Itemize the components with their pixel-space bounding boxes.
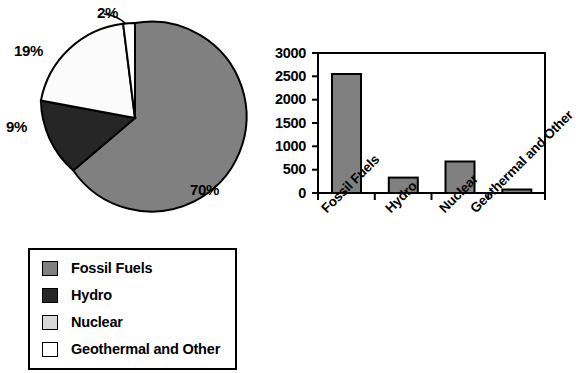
chart-legend: Fossil Fuels Hydro Nuclear Geothermal an… bbox=[28, 248, 237, 370]
y-axis-tick-label-1000: 1000 bbox=[262, 139, 306, 154]
legend-label-nuclear: Nuclear bbox=[71, 314, 123, 330]
y-axis-tick-label-1500: 1500 bbox=[262, 116, 306, 131]
bar-geothermal-and-other[interactable] bbox=[502, 190, 531, 194]
y-axis-tick-label-3000: 3000 bbox=[262, 46, 306, 61]
legend-item-geothermal-and-other[interactable]: Geothermal and Other bbox=[42, 340, 220, 358]
pie-chart-svg bbox=[0, 0, 270, 243]
legend-swatch-geothermal-and-other bbox=[42, 342, 58, 357]
y-axis-tick-label-2500: 2500 bbox=[262, 69, 306, 84]
legend-swatch-fossil-fuels bbox=[42, 261, 58, 276]
legend-label-geothermal-and-other: Geothermal and Other bbox=[71, 341, 220, 357]
pie-value-label-hydro: 9% bbox=[6, 119, 27, 134]
legend-label-fossil-fuels: Fossil Fuels bbox=[71, 260, 152, 276]
legend-swatch-hydro bbox=[42, 288, 58, 303]
legend-item-fossil-fuels[interactable]: Fossil Fuels bbox=[42, 259, 152, 277]
legend-label-hydro: Hydro bbox=[71, 287, 112, 303]
bar-chart-svg bbox=[270, 20, 555, 373]
legend-swatch-nuclear bbox=[42, 315, 58, 330]
bar-chart-figure: 3000 2500 2000 1500 1000 500 0 Fossil Fu… bbox=[270, 20, 555, 373]
y-axis-tick-label-500: 500 bbox=[262, 162, 306, 177]
pie-value-label-geothermal-and-other: 2% bbox=[97, 5, 118, 20]
pie-value-label-fossil-fuels: 70% bbox=[190, 182, 219, 197]
pie-value-label-nuclear: 19% bbox=[14, 43, 43, 58]
legend-item-hydro[interactable]: Hydro bbox=[42, 286, 112, 304]
pie-chart-figure: 70% 9% 19% 2% bbox=[0, 0, 270, 243]
y-axis-tick-label-0: 0 bbox=[262, 186, 306, 201]
y-axis-tick-label-2000: 2000 bbox=[262, 92, 306, 107]
pie-slice-nuclear[interactable] bbox=[41, 24, 135, 118]
x-axis-ticks bbox=[318, 193, 545, 200]
legend-item-nuclear[interactable]: Nuclear bbox=[42, 313, 123, 331]
